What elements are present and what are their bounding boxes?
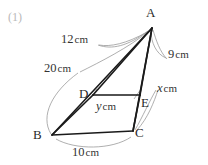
dimension-unit-de: cm xyxy=(103,100,116,112)
vertex-label-b: B xyxy=(33,128,42,141)
dimension-unit-ae: cm xyxy=(175,48,188,60)
vertex-label-e: E xyxy=(141,96,149,109)
dimension-label-de: ycm xyxy=(96,100,116,113)
leader-line-12cm xyxy=(98,31,148,47)
dimension-label-ae: 9cm xyxy=(168,48,189,61)
vertex-label-d: D xyxy=(79,87,88,100)
dimension-label-bc: 10cm xyxy=(72,146,99,159)
dimension-value-ad: 12 xyxy=(61,32,74,46)
dimension-unit-bc: cm xyxy=(86,146,99,158)
dimension-unit-ab: cm xyxy=(58,62,71,74)
dimension-unit-ad: cm xyxy=(75,33,88,45)
dimension-value-de: y xyxy=(96,99,102,113)
vertex-label-c: C xyxy=(135,126,144,139)
dimension-value-bc: 10 xyxy=(72,145,85,159)
vertex-label-a: A xyxy=(146,6,155,19)
dimension-label-ad: 12cm xyxy=(61,33,88,46)
edge-d-b xyxy=(52,95,93,135)
dimension-label-ab: 20cm xyxy=(44,62,71,75)
dimension-value-ec: x xyxy=(157,81,163,95)
leader-line-12cm-inner xyxy=(99,32,147,46)
dimension-label-ec: xcm xyxy=(157,82,177,95)
dimension-value-ae: 9 xyxy=(168,47,174,61)
dimension-unit-ec: cm xyxy=(164,82,177,94)
edge-b-c xyxy=(52,131,133,135)
geometry-figure: (1) xyxy=(0,0,208,165)
dimension-value-ab: 20 xyxy=(44,61,57,75)
